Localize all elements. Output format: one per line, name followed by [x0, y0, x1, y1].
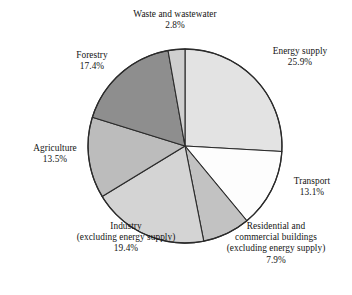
slice-label-line: Agriculture	[8, 143, 102, 154]
slice-label-line: (excluding energy supply)	[50, 232, 202, 243]
slice-label-energy-supply: Energy supply 25.9%	[252, 46, 348, 68]
slice-value-label: 19.4%	[50, 243, 202, 254]
slice-label-transport: Transport 13.1%	[274, 176, 350, 198]
slice-value-label: 17.4%	[48, 61, 136, 72]
slice-label-line: Industry	[50, 221, 202, 232]
slice-label-industry: Industry (excluding energy supply) 19.4%	[50, 221, 202, 255]
slice-label-line: Forestry	[48, 50, 136, 61]
pie-chart: Waste and wastewater 2.8% Energy supply …	[0, 0, 352, 295]
slice-label-waste-and-wastewater: Waste and wastewater 2.8%	[108, 9, 242, 31]
slice-value-label: 2.8%	[108, 20, 242, 31]
slice-label-line: Waste and wastewater	[108, 9, 242, 20]
slice-label-line: Residential and	[202, 221, 350, 232]
slice-value-label: 25.9%	[252, 57, 348, 68]
slice-value-label: 13.5%	[8, 154, 102, 165]
slice-label-agriculture: Agriculture 13.5%	[8, 143, 102, 165]
slice-label-forestry: Forestry 17.4%	[48, 50, 136, 72]
slice-label-line: Transport	[274, 176, 350, 187]
slice-label-line: (excluding energy supply)	[202, 243, 350, 254]
slice-label-residential-and-commercial-buildings: Residential and commercial buildings (ex…	[202, 221, 350, 266]
slice-label-line: commercial buildings	[202, 232, 350, 243]
slice-value-label: 7.9%	[202, 255, 350, 266]
slice-label-line: Energy supply	[252, 46, 348, 57]
slice-value-label: 13.1%	[274, 187, 350, 198]
